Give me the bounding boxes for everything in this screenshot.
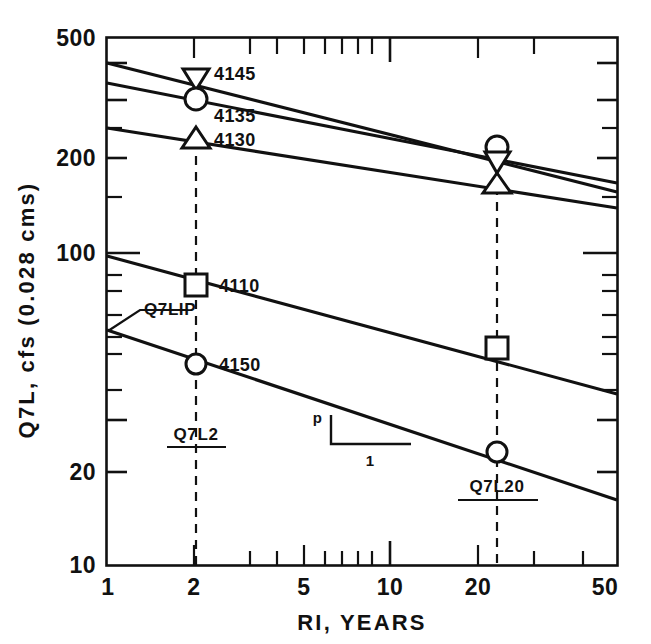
annotation-q7l2-label: Q7L2 xyxy=(174,425,219,444)
series-label-4135: 4135 xyxy=(214,106,256,126)
y-tick-labels: 500 200 100 20 10 xyxy=(56,25,96,578)
series-label-4150: 4150 xyxy=(219,355,261,375)
marker-4110-at-2 xyxy=(185,274,207,296)
marker-4135-at-2 xyxy=(185,88,207,110)
x-tick-label-20: 20 xyxy=(465,574,492,600)
y-tick-label-20: 20 xyxy=(69,459,96,485)
marker-4130-at-2 xyxy=(182,127,210,148)
y-tick-label-500: 500 xyxy=(56,25,96,51)
chart-svg: 500 200 100 20 10 1 2 5 10 20 50 RI, YEA… xyxy=(0,0,651,644)
y-tick-label-100: 100 xyxy=(56,240,96,266)
x-tick-label-2: 2 xyxy=(187,574,200,600)
y-tick-label-10: 10 xyxy=(69,552,96,578)
series-line-4150 xyxy=(107,330,617,500)
marker-4110-at-20 xyxy=(486,337,508,359)
x-axis-ticks-top xyxy=(194,38,534,62)
y-axis-ticks-left xyxy=(106,63,140,472)
slope-run-label: 1 xyxy=(366,452,374,469)
series-label-4130: 4130 xyxy=(214,130,256,150)
marker-4130-at-20 xyxy=(483,173,511,193)
x-tick-label-10: 10 xyxy=(377,574,404,600)
x-axis-title: RI, YEARS xyxy=(297,610,426,635)
series-line-4145 xyxy=(107,63,617,192)
y-axis-ticks-right xyxy=(583,63,618,472)
marker-4150-at-2 xyxy=(186,354,206,374)
x-tick-label-50: 50 xyxy=(592,574,619,600)
slope-indicator: p 1 xyxy=(313,409,411,469)
marker-4150-at-20 xyxy=(487,442,507,462)
chart-figure: 500 200 100 20 10 1 2 5 10 20 50 RI, YEA… xyxy=(0,0,651,644)
x-axis-ticks-bottom xyxy=(194,541,583,566)
x-tick-label-1: 1 xyxy=(101,574,114,600)
x-tick-label-5: 5 xyxy=(297,574,310,600)
annotation-q7l2: Q7L2 xyxy=(167,425,226,447)
y-tick-label-200: 200 xyxy=(56,145,96,171)
annotation-q7l20-label: Q7L20 xyxy=(470,477,525,496)
annotation-q7lip-label: Q7LIP xyxy=(144,300,196,319)
y-axis-title: Q7L, cfs (0.028 cms) xyxy=(14,182,39,439)
slope-rise-label: p xyxy=(313,409,322,426)
x-tick-labels: 1 2 5 10 20 50 xyxy=(101,574,618,600)
series-label-4145: 4145 xyxy=(214,64,256,84)
series-label-4110: 4110 xyxy=(219,276,260,296)
